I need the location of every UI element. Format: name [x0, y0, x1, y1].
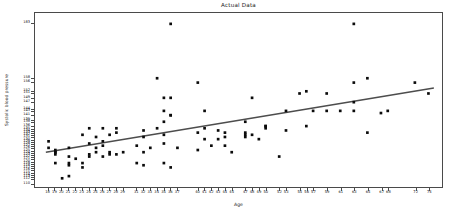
data-point	[88, 127, 91, 130]
data-point	[325, 92, 328, 95]
x-tick-label: 61	[338, 190, 343, 194]
data-point	[81, 166, 84, 169]
x-tick-label: 27	[107, 190, 112, 194]
y-tick-label: 119	[10, 162, 30, 166]
x-tick-mark	[116, 188, 117, 191]
data-point	[135, 162, 138, 165]
data-point	[251, 96, 254, 99]
data-point	[163, 120, 166, 123]
x-tick-label: 31	[134, 190, 139, 194]
x-tick-label: 18	[45, 190, 50, 194]
data-point	[95, 151, 98, 154]
data-point	[101, 140, 104, 143]
x-tick-label: 44	[223, 190, 228, 194]
data-point	[196, 149, 199, 152]
x-tick-mark	[102, 188, 103, 191]
data-point	[142, 151, 145, 154]
y-tick-label: 135	[10, 127, 30, 131]
y-tick-label: 141	[10, 113, 30, 117]
y-tick-label: 127	[10, 144, 30, 148]
x-tick-mark	[204, 188, 205, 191]
x-tick-mark	[300, 188, 301, 191]
data-point	[95, 147, 98, 150]
figure-canvas: Actual Data Systolic blood pressure 1831…	[0, 0, 453, 215]
data-point	[156, 77, 159, 80]
data-point	[61, 177, 64, 180]
x-tick-mark	[68, 188, 69, 191]
x-tick-mark	[252, 188, 253, 191]
data-point	[258, 138, 261, 141]
x-tick-label: 55	[297, 190, 302, 194]
data-point	[68, 175, 71, 178]
x-tick-label: 21	[66, 190, 71, 194]
data-point	[224, 136, 227, 139]
x-tick-mark	[341, 188, 342, 191]
data-point	[81, 162, 84, 165]
y-tick-label: 118	[10, 164, 30, 168]
x-tick-label: 42	[209, 190, 214, 194]
data-point	[54, 149, 57, 152]
x-tick-label: 36	[168, 190, 173, 194]
data-point	[142, 164, 145, 167]
data-point	[244, 120, 247, 123]
y-tick-label: 134	[10, 129, 30, 133]
data-point	[68, 164, 71, 167]
x-tick-label: 67	[379, 190, 384, 194]
x-tick-mark	[286, 188, 287, 191]
y-axis-label-container: Systolic blood pressure	[0, 12, 11, 188]
y-tick-label: 120	[10, 160, 30, 164]
x-tick-label: 19	[52, 190, 57, 194]
data-point	[312, 110, 315, 113]
y-tick-label: 130	[10, 138, 30, 142]
x-tick-mark	[259, 188, 260, 191]
data-point	[352, 81, 355, 84]
data-point	[68, 155, 71, 158]
x-tick-mark	[95, 188, 96, 191]
y-tick-label: 122	[10, 155, 30, 159]
x-tick-label: 20	[59, 190, 64, 194]
data-point	[108, 133, 111, 136]
x-tick-label: 24	[86, 190, 91, 194]
x-tick-mark	[75, 188, 76, 191]
y-tick-label: 125	[10, 149, 30, 153]
y-tick-label: 124	[10, 151, 30, 155]
x-tick-mark	[429, 188, 430, 191]
x-tick-mark	[225, 188, 226, 191]
x-tick-mark	[136, 188, 137, 191]
data-point	[352, 101, 355, 104]
y-tick-label: 138	[10, 120, 30, 124]
data-point	[135, 144, 138, 147]
x-tick-mark	[164, 188, 165, 191]
data-point	[298, 92, 301, 95]
x-tick-mark	[368, 188, 369, 191]
data-point	[244, 136, 247, 139]
x-tick-mark	[354, 188, 355, 191]
y-axis-label: Systolic blood pressure	[3, 74, 8, 126]
data-point	[278, 155, 281, 158]
x-tick-mark	[388, 188, 389, 191]
data-point	[196, 131, 199, 134]
x-tick-label: 56	[304, 190, 309, 194]
x-tick-mark	[143, 188, 144, 191]
x-tick-label: 40	[195, 190, 200, 194]
data-point	[122, 151, 125, 154]
data-point	[203, 127, 206, 130]
x-tick-mark	[170, 188, 171, 191]
data-point	[366, 77, 369, 80]
x-tick-mark	[150, 188, 151, 191]
x-tick-label: 68	[386, 190, 391, 194]
x-tick-label: 43	[216, 190, 221, 194]
y-tick-label: 139	[10, 118, 30, 122]
y-tick-label: 121	[10, 157, 30, 161]
data-point	[101, 155, 104, 158]
x-tick-mark	[313, 188, 314, 191]
y-tick-label: 115	[10, 171, 30, 175]
x-tick-label: 47	[243, 190, 248, 194]
data-point	[414, 81, 417, 84]
data-point	[264, 127, 267, 130]
y-tick-label: 136	[10, 124, 30, 128]
x-tick-label: 41	[202, 190, 207, 194]
x-tick-label: 72	[413, 190, 418, 194]
data-point	[244, 131, 247, 134]
data-point	[386, 110, 389, 113]
